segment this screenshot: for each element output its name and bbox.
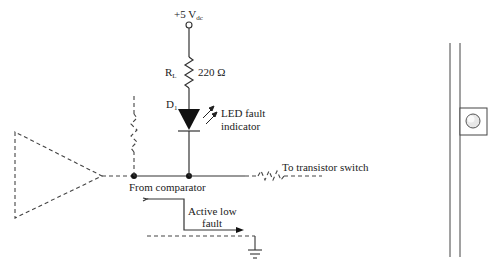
diode-name-label: D1 — [166, 98, 178, 112]
panel-side-view — [450, 43, 487, 257]
from-comparator-label: From comparator — [129, 181, 206, 193]
resistor-name-label: RL — [165, 66, 177, 80]
dashed-pullup-resistor — [131, 95, 137, 176]
active-low-label-line1: Active low — [188, 205, 237, 217]
led-symbol — [178, 109, 200, 130]
led-light-arrows-icon — [203, 106, 217, 124]
supply-label: +5 Vdc — [174, 8, 203, 22]
active-low-label-line2: fault — [202, 217, 222, 229]
resistor-value-label: 220 Ω — [198, 66, 225, 78]
ground-icon — [248, 236, 262, 258]
resistor-rl-symbol — [185, 57, 193, 88]
circuit-diagram: +5 Vdc RL 220 Ω D1 LED fault indicator T… — [0, 0, 504, 271]
led-description-line1: LED fault — [221, 107, 265, 119]
supply-terminal — [186, 22, 192, 28]
comparator-triangle — [15, 132, 102, 218]
to-switch-label: To transistor switch — [282, 161, 369, 173]
led-description-line2: indicator — [221, 120, 260, 132]
